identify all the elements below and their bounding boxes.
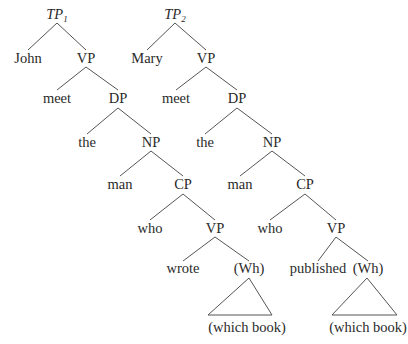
tree-node-john: John (14, 50, 42, 66)
tree-edge (206, 67, 237, 90)
tree-edge (147, 23, 175, 50)
tree-edge (270, 194, 305, 220)
tree-labels: TP1JohnVPmeetDPtheNPmanCPwhoVPwrote(Wh)(… (14, 6, 407, 336)
tree-edge (205, 108, 237, 134)
constituent-triangle (332, 278, 397, 315)
tree-node-vp2: VP (206, 220, 225, 236)
tree-node-man: man (108, 176, 134, 192)
tree-node-np: NP (263, 134, 282, 150)
tree-node-meet: meet (43, 90, 71, 106)
tree-edge (118, 108, 151, 134)
tree-node-who: who (258, 220, 283, 236)
tree-edge (183, 237, 215, 261)
tree-edge (237, 108, 272, 134)
tree-edge (151, 151, 183, 176)
tree-edge (120, 151, 151, 176)
tree-node-man: man (228, 176, 254, 192)
tree-edge (215, 237, 249, 261)
tree-node-mary: Mary (131, 50, 163, 66)
tree-node-verb: published (290, 260, 347, 276)
tree-node-vp2: VP (327, 220, 346, 236)
tree-edge (176, 67, 206, 90)
tree-edge (272, 151, 305, 176)
tree-edge (240, 151, 272, 176)
tree-node-verb: wrote (166, 260, 199, 276)
tree-node-wh: (Wh) (234, 260, 265, 277)
tree-edge (183, 194, 215, 220)
constituent-triangle (208, 278, 272, 315)
root-node-tree-1: TP1 (46, 6, 67, 24)
tree-node-phrase: (which book) (208, 319, 286, 336)
tree-edge (336, 237, 368, 261)
tree-node-cp: CP (174, 176, 192, 192)
tree-node-phrase: (which book) (329, 319, 407, 336)
tree-node-dp: DP (109, 90, 128, 106)
tree-edge (86, 67, 118, 90)
tree-node-meet: meet (162, 90, 190, 106)
tree-node-vp1: VP (197, 50, 216, 66)
tree-edge (318, 237, 336, 261)
syntax-tree-diagram: TP1JohnVPmeetDPtheNPmanCPwhoVPwrote(Wh)(… (0, 0, 408, 344)
tree-node-who: who (138, 220, 163, 236)
tree-edge (28, 23, 57, 50)
tree-node-dp: DP (228, 90, 247, 106)
root-node-tree-2: TP2 (164, 6, 186, 24)
tree-node-wh: (Wh) (353, 260, 384, 277)
tree-node-vp1: VP (77, 50, 96, 66)
tree-node-np: NP (142, 134, 161, 150)
tree-edge (150, 194, 183, 220)
tree-edge (175, 23, 206, 50)
tree-node-the: the (196, 134, 214, 150)
tree-node-cp: CP (296, 176, 314, 192)
tree-edge (57, 23, 86, 50)
tree-edge (87, 108, 118, 134)
tree-edge (57, 67, 86, 90)
tree-node-the: the (78, 134, 96, 150)
tree-edge (305, 194, 336, 220)
